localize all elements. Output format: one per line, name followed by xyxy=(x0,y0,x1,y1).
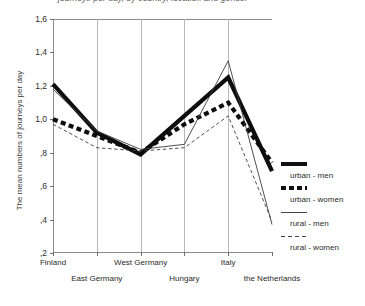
chart-title: journeys per day, by country, location a… xyxy=(0,0,365,11)
legend-label: rural - men xyxy=(290,219,329,228)
legend-label: rural - women xyxy=(290,243,339,252)
x-axis-tick xyxy=(272,252,273,256)
y-axis-tick-label: ,8 xyxy=(40,148,47,158)
y-axis-title: The mean numbers of journeys per day xyxy=(15,36,24,246)
legend-item[interactable]: rural - men xyxy=(281,208,365,232)
x-axis-label: East Germany xyxy=(71,274,122,283)
y-axis-tick-label: 1,0 xyxy=(35,114,47,124)
x-axis-label: the Netherlands xyxy=(244,274,300,283)
y-axis-tick-label: 1,2 xyxy=(35,81,47,91)
plot-area: ,2,4,6,81,01,21,41,6 xyxy=(53,19,272,253)
legend-swatch xyxy=(281,212,307,213)
chart-title-text: journeys per day, by country, location a… xyxy=(58,0,248,3)
legend-item[interactable]: urban - men xyxy=(281,160,365,184)
y-axis-tick-label: 1,6 xyxy=(35,14,47,24)
legend-item[interactable]: urban - women xyxy=(281,184,365,208)
line-chart: journeys per day, by country, location a… xyxy=(0,0,365,306)
legend-item[interactable]: rural - women xyxy=(281,232,365,256)
x-axis-label: Italy xyxy=(221,258,236,267)
series-line xyxy=(53,78,272,172)
x-axis-label: West Germany xyxy=(114,258,167,267)
legend-label: urban - women xyxy=(290,195,343,204)
y-axis-tick-label: 1,4 xyxy=(35,47,47,57)
legend-swatch xyxy=(281,162,307,166)
legend: urban - menurban - womenrural - menrural… xyxy=(281,160,365,256)
x-axis-label: Hungary xyxy=(169,274,199,283)
legend-swatch xyxy=(281,186,307,190)
legend-swatch xyxy=(281,236,307,237)
y-axis-tick-label: ,4 xyxy=(40,215,47,225)
series-lines xyxy=(53,19,272,253)
legend-label: urban - men xyxy=(290,171,333,180)
y-axis-tick-label: ,6 xyxy=(40,181,47,191)
y-axis-tick-label: ,2 xyxy=(40,248,47,258)
x-axis-label: Finland xyxy=(40,258,66,267)
